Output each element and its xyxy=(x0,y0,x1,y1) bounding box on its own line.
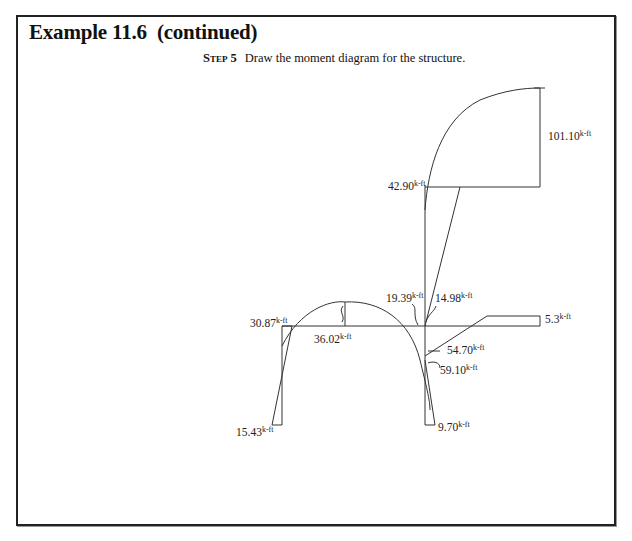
moment-label-5910: 59.10k-ft xyxy=(440,363,478,376)
top-closing-line xyxy=(425,187,460,326)
moment-label-5470: 54.70k-ft xyxy=(447,343,485,356)
leader-36 xyxy=(341,306,343,322)
right-column-moment xyxy=(425,360,435,425)
moment-label-1939: 19.39k-ft xyxy=(386,291,424,304)
moment-label-4290: 42.90k-ft xyxy=(388,179,426,192)
moment-diagram: 101.10k-ft 42.90k-ft 19.39k-ft 14.98k-ft… xyxy=(0,0,632,541)
beam-parabola xyxy=(282,302,430,410)
leader-1498 xyxy=(426,306,436,322)
moment-label-53: 5.3k-ft xyxy=(545,312,572,325)
leader-5910 xyxy=(428,362,440,368)
top-parabola xyxy=(425,88,540,210)
leader-1939 xyxy=(412,304,418,325)
moment-label-1498: 14.98k-ft xyxy=(435,291,473,304)
moment-label-3602: 36.02k-ft xyxy=(314,332,352,345)
top-moment-box xyxy=(425,88,540,187)
moment-label-970: 9.70k-ft xyxy=(438,420,470,433)
moment-label-1543: 15.43k-ft xyxy=(236,425,274,438)
moment-label-101: 101.10k-ft xyxy=(548,129,592,142)
